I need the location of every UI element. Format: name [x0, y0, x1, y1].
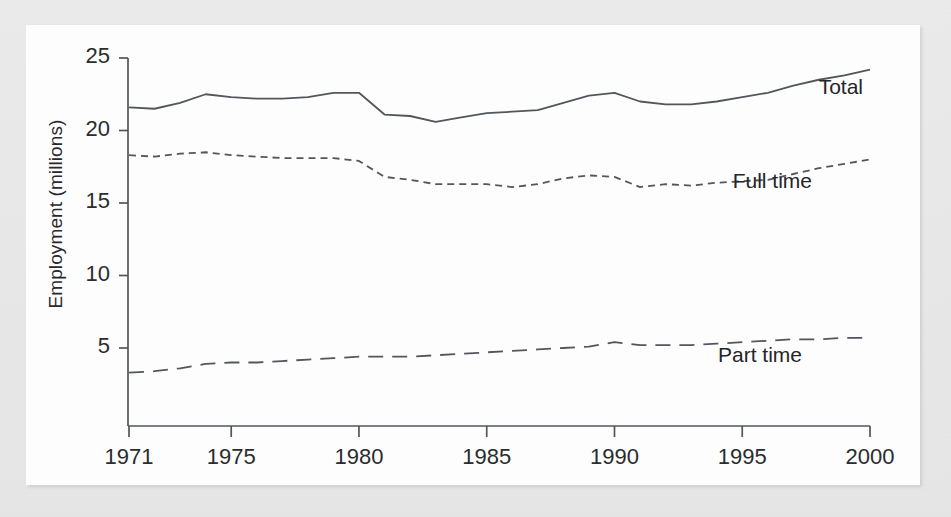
- y-tick-label: 5: [50, 333, 110, 359]
- x-tick-label: 1980: [299, 444, 419, 470]
- chart-canvas: [26, 25, 920, 485]
- chart-series: [129, 70, 870, 373]
- x-tick-label: 2000: [810, 444, 930, 470]
- series-label-full-time: Full time: [733, 169, 812, 193]
- x-tick-label: 1995: [682, 444, 802, 470]
- series-label-total: Total: [819, 75, 863, 99]
- x-tick-label: 1990: [554, 444, 674, 470]
- x-tick-label: 1975: [171, 444, 291, 470]
- line-chart: Employment (millions) 510152025 19711975…: [26, 25, 920, 485]
- y-tick-label: 15: [50, 188, 110, 214]
- chart-axes: [119, 58, 870, 437]
- y-tick-label: 20: [50, 116, 110, 142]
- series-label-part-time: Part time: [718, 343, 802, 367]
- chart-paper: Employment (millions) 510152025 19711975…: [26, 25, 920, 485]
- x-tick-label: 1985: [427, 444, 547, 470]
- screenshot-page: Employment (millions) 510152025 19711975…: [0, 0, 951, 517]
- y-tick-label: 25: [50, 43, 110, 69]
- series-line-total: [129, 70, 870, 122]
- y-tick-label: 10: [50, 261, 110, 287]
